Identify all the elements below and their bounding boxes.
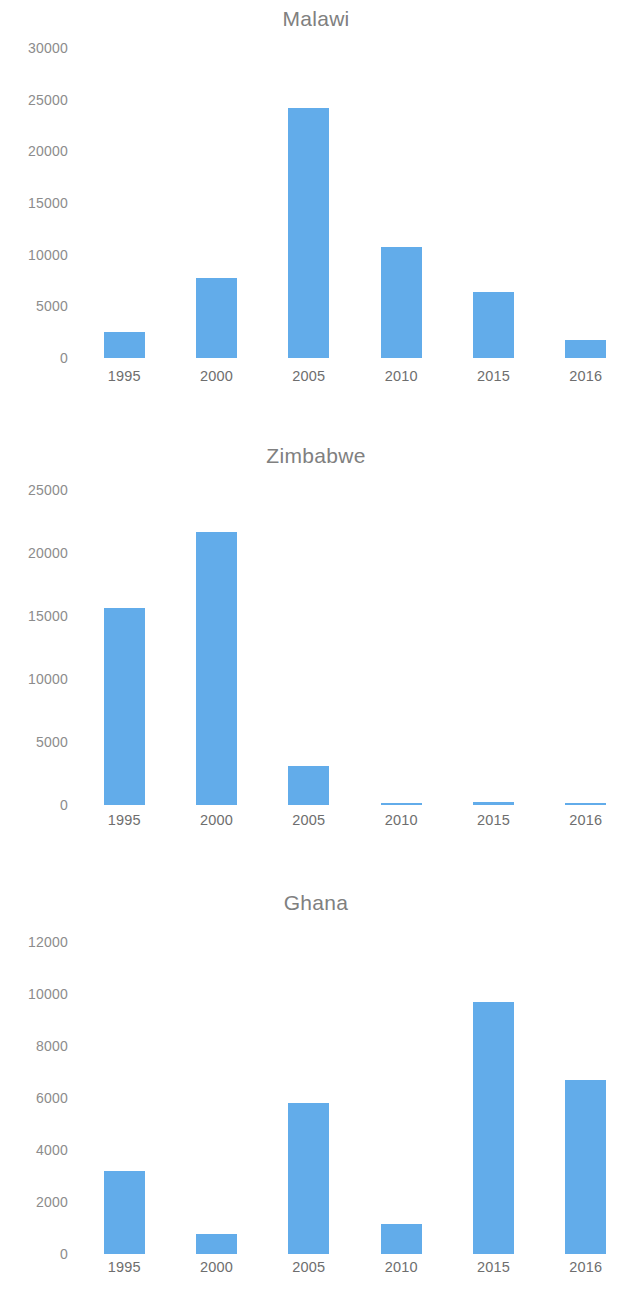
plot-area-malawi: 050001000015000200002500030000 (0, 48, 632, 358)
y-axis-tick-label: 20000 (28, 144, 68, 158)
y-axis-tick-label: 10000 (28, 672, 68, 686)
y-axis-tick-label: 12000 (28, 935, 68, 949)
y-axis-tick-label: 0 (60, 798, 68, 812)
bar-slot (104, 48, 145, 358)
x-axis-tick-label: 1995 (78, 363, 170, 389)
bar-slot (196, 942, 237, 1254)
bar-2000[interactable] (196, 278, 237, 358)
bar-group-zimbabwe (78, 490, 632, 805)
chart-panel-ghana: Ghana 020004000600080001000012000 199520… (0, 880, 632, 1291)
bar-2000[interactable] (196, 532, 237, 805)
x-axis-tick-label: 1995 (78, 1254, 170, 1280)
x-axis-tick-label: 2010 (355, 363, 447, 389)
chart-panel-zimbabwe: Zimbabwe 0500010000150002000025000 19952… (0, 435, 632, 855)
bar-group-ghana (78, 942, 632, 1254)
y-axis-tick-label: 10000 (28, 987, 68, 1001)
plot-area-zimbabwe: 0500010000150002000025000 (0, 490, 632, 805)
x-axis-tick-label: 2005 (263, 363, 355, 389)
bar-2016[interactable] (565, 1080, 606, 1254)
bar-2015[interactable] (473, 1002, 514, 1254)
y-axis-tick-label: 25000 (28, 93, 68, 107)
bar-2015[interactable] (473, 802, 514, 805)
bar-2005[interactable] (288, 766, 329, 805)
bar-group-malawi (78, 48, 632, 358)
y-axis-tick-label: 0 (60, 351, 68, 365)
x-axis-tick-label: 2010 (355, 807, 447, 833)
bar-1995[interactable] (104, 1171, 145, 1254)
plot-area-ghana: 020004000600080001000012000 (0, 942, 632, 1254)
y-axis-malawi: 050001000015000200002500030000 (0, 48, 78, 358)
y-axis-ghana: 020004000600080001000012000 (0, 942, 78, 1254)
bar-1995[interactable] (104, 608, 145, 805)
bar-slot (381, 490, 422, 805)
y-axis-tick-label: 8000 (36, 1039, 68, 1053)
y-axis-tick-label: 4000 (36, 1143, 68, 1157)
x-axis-tick-label: 2016 (540, 363, 632, 389)
x-axis-tick-label: 2000 (170, 363, 262, 389)
y-axis-tick-label: 5000 (36, 299, 68, 313)
x-axis-tick-label: 2015 (447, 807, 539, 833)
y-axis-tick-label: 15000 (28, 196, 68, 210)
y-axis-tick-label: 0 (60, 1247, 68, 1261)
chart-title-zimbabwe: Zimbabwe (0, 445, 632, 466)
x-axis-tick-label: 1995 (78, 807, 170, 833)
bar-1995[interactable] (104, 332, 145, 358)
x-axis-malawi: 199520002005201020152016 (78, 363, 632, 389)
y-axis-tick-label: 30000 (28, 41, 68, 55)
x-axis-tick-label: 2016 (540, 807, 632, 833)
bar-slot (196, 48, 237, 358)
bar-slot (288, 942, 329, 1254)
bar-slot (565, 48, 606, 358)
bar-2000[interactable] (196, 1234, 237, 1254)
bar-slot (381, 942, 422, 1254)
y-axis-tick-label: 25000 (28, 483, 68, 497)
x-axis-tick-label: 2005 (263, 807, 355, 833)
x-axis-tick-label: 2015 (447, 1254, 539, 1280)
bar-slot (288, 48, 329, 358)
y-axis-tick-label: 10000 (28, 248, 68, 262)
bar-2010[interactable] (381, 247, 422, 358)
y-axis-tick-label: 2000 (36, 1195, 68, 1209)
x-axis-tick-label: 2000 (170, 1254, 262, 1280)
x-axis-ghana: 199520002005201020152016 (78, 1254, 632, 1280)
bar-slot (565, 942, 606, 1254)
bar-slot (104, 942, 145, 1254)
x-axis-zimbabwe: 199520002005201020152016 (78, 807, 632, 833)
y-axis-zimbabwe: 0500010000150002000025000 (0, 490, 78, 805)
x-axis-tick-label: 2005 (263, 1254, 355, 1280)
chart-title-ghana: Ghana (0, 892, 632, 913)
bar-slot (473, 490, 514, 805)
chart-panel-malawi: Malawi 050001000015000200002500030000 19… (0, 0, 632, 420)
bar-2016[interactable] (565, 803, 606, 805)
bar-2005[interactable] (288, 1103, 329, 1254)
bar-slot (196, 490, 237, 805)
x-axis-tick-label: 2015 (447, 363, 539, 389)
bar-2010[interactable] (381, 1224, 422, 1254)
x-axis-tick-label: 2016 (540, 1254, 632, 1280)
bar-slot (104, 490, 145, 805)
bar-slot (473, 48, 514, 358)
y-axis-tick-label: 6000 (36, 1091, 68, 1105)
y-axis-tick-label: 5000 (36, 735, 68, 749)
x-axis-tick-label: 2010 (355, 1254, 447, 1280)
y-axis-tick-label: 15000 (28, 609, 68, 623)
bar-slot (288, 490, 329, 805)
bar-2010[interactable] (381, 803, 422, 805)
bar-slot (473, 942, 514, 1254)
bar-2005[interactable] (288, 108, 329, 358)
y-axis-tick-label: 20000 (28, 546, 68, 560)
x-axis-tick-label: 2000 (170, 807, 262, 833)
bar-2016[interactable] (565, 340, 606, 358)
bar-slot (381, 48, 422, 358)
chart-title-malawi: Malawi (0, 8, 632, 29)
bar-slot (565, 490, 606, 805)
bar-2015[interactable] (473, 292, 514, 358)
